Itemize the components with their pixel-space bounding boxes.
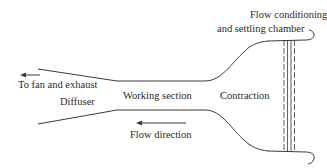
label-flow-conditioning-2: and settling chamber <box>217 24 304 35</box>
label-contraction: Contraction <box>220 91 270 102</box>
label-diffuser: Diffuser <box>60 97 95 108</box>
label-flow-direction: Flow direction <box>130 130 192 141</box>
flow-direction-arrow-icon <box>136 121 186 126</box>
top-wall <box>38 30 314 81</box>
exhaust-arrow-icon <box>20 73 40 78</box>
label-to-fan-exhaust: To fan and exhaust <box>18 80 97 91</box>
label-working-section: Working section <box>123 91 192 102</box>
label-flow-conditioning-1: Flow conditioning <box>250 10 327 21</box>
